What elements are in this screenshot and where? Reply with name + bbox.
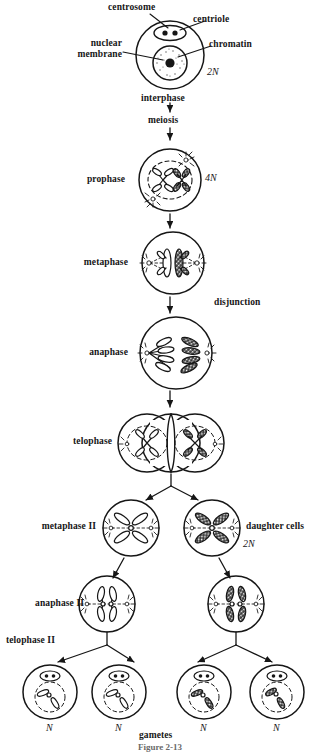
arrows-to-anaphase2 bbox=[113, 558, 230, 578]
ploidy-daughter-cells: 2N bbox=[243, 538, 255, 549]
cell-metaphase2-right bbox=[184, 500, 240, 556]
label-metaphase: metaphase bbox=[48, 257, 128, 268]
label-telophase: telophase bbox=[42, 436, 112, 447]
label-interphase: interphase bbox=[141, 93, 185, 104]
label-meiosis: meiosis bbox=[148, 115, 178, 126]
aster-left-anaphase bbox=[138, 343, 149, 363]
cell-metaphase bbox=[140, 232, 206, 294]
nucleus-shape bbox=[153, 46, 187, 80]
label-anaphase: anaphase bbox=[52, 347, 128, 358]
label-gametes: gametes bbox=[139, 730, 172, 741]
cell-anaphase bbox=[138, 317, 216, 389]
label-prophase: prophase bbox=[55, 174, 125, 185]
label-nuclear-membrane-line1: nuclear bbox=[72, 38, 122, 49]
label-disjunction: disjunction bbox=[214, 297, 261, 308]
chromosome-set-light-anaphase bbox=[149, 336, 174, 373]
label-centriole: centriole bbox=[193, 14, 229, 25]
chromosome-set-dark-anaphase bbox=[180, 335, 201, 374]
label-daughter-cells: daughter cells bbox=[246, 521, 304, 532]
cell-interphase bbox=[123, 14, 211, 89]
cell-anaphase2-right bbox=[208, 576, 264, 632]
chromosome-pair-dark bbox=[172, 167, 191, 192]
cell-anaphase2-left bbox=[79, 576, 135, 632]
cell-telophase bbox=[118, 414, 224, 472]
arrows-telophase-split bbox=[146, 474, 198, 500]
cell-metaphase2-left bbox=[103, 500, 159, 556]
ploidy-interphase: 2N bbox=[207, 66, 219, 77]
pole-left bbox=[140, 254, 151, 272]
aster-right-anaphase bbox=[205, 343, 216, 363]
ploidy-gamete-1: N bbox=[46, 722, 53, 733]
gamete-cell-3 bbox=[177, 665, 231, 719]
label-anaphase-2: anaphase II bbox=[12, 598, 84, 609]
label-telophase-2: telophase II bbox=[6, 635, 55, 646]
cell-prophase bbox=[139, 149, 201, 211]
centrosome-shape bbox=[154, 26, 186, 41]
gamete-cell-1 bbox=[23, 665, 77, 719]
chromosome-dark-metaphase bbox=[175, 249, 190, 277]
figure-caption: Figure 2-13 bbox=[138, 742, 182, 752]
chromosome-light-metaphase bbox=[156, 249, 171, 277]
label-metaphase-2: metaphase II bbox=[18, 521, 96, 532]
pole-right bbox=[195, 254, 206, 272]
label-chromatin: chromatin bbox=[209, 39, 252, 50]
label-centrosome: centrosome bbox=[108, 2, 155, 13]
arrows-to-gametes bbox=[58, 632, 272, 662]
ploidy-gamete-2: N bbox=[115, 722, 122, 733]
label-nuclear-membrane-line2: membrane bbox=[63, 49, 122, 60]
chromosome-pair-light bbox=[152, 167, 175, 193]
gamete-cell-2 bbox=[92, 665, 146, 719]
nucleolus bbox=[165, 58, 174, 67]
ploidy-gamete-4: N bbox=[273, 722, 280, 733]
gamete-cell-4 bbox=[250, 665, 304, 719]
ploidy-gamete-3: N bbox=[200, 722, 207, 733]
ploidy-prophase: 4N bbox=[205, 172, 217, 183]
